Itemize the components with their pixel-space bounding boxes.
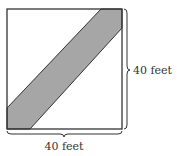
right-brace (124, 9, 130, 129)
bottom-dimension-label: 40 feet (44, 140, 84, 153)
diagram-canvas: 40 feet 40 feet (0, 0, 177, 156)
diagonal-strip (7, 9, 122, 129)
bottom-brace (7, 131, 122, 137)
right-dimension-label: 40 feet (133, 64, 173, 77)
